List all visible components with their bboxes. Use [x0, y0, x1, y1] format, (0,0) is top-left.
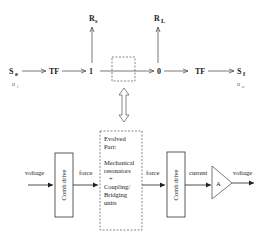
diagram: S e u i TF 1 R s 0 R L TF S f u o voltag…	[0, 0, 269, 241]
input-u-label: u	[12, 81, 15, 87]
amplifier-triangle	[212, 166, 232, 199]
source-flow-label: S	[237, 67, 242, 76]
tf-right: TF	[195, 67, 205, 76]
evolved-line-8: units	[104, 199, 117, 206]
input-u-subscript: i	[17, 84, 19, 89]
source-flow: S f u o	[237, 67, 246, 89]
evolved-line-4: resonators	[104, 167, 131, 174]
resistor-l-subscript: L	[161, 17, 166, 24]
double-arrow-icon	[119, 88, 129, 122]
force-right-label: force	[146, 169, 159, 176]
resistor-s-subscript: s	[95, 17, 98, 24]
input-voltage-label: voltage	[25, 169, 44, 176]
evolved-region-box	[112, 57, 135, 81]
source-effort-subscript: e	[15, 70, 18, 77]
evolved-line-7: Bridging	[104, 191, 128, 198]
output-voltage-label: voltage	[233, 169, 252, 176]
tf-left: TF	[49, 67, 59, 76]
evolved-line-0: Evolved	[104, 135, 126, 142]
evolved-line-5: +	[109, 175, 113, 182]
junction-0: 0	[157, 67, 161, 76]
evolved-line-1: Part:	[104, 143, 116, 150]
source-effort: S e u i	[9, 67, 19, 89]
source-effort-label: S	[9, 67, 14, 76]
source-flow-subscript: f	[243, 70, 246, 77]
resistor-l-label: R	[154, 14, 160, 23]
junction-1: 1	[89, 67, 93, 76]
current-label: current	[189, 169, 208, 176]
evolved-part-text: Evolved Part: Mechanical resonators + Co…	[104, 135, 135, 206]
comb-drive-right-label: Comb drive	[172, 169, 179, 200]
amplifier-label: A	[216, 180, 221, 187]
evolved-line-6: Coupling/	[104, 183, 130, 190]
output-u-subscript: o	[242, 84, 245, 89]
evolved-line-3: Mechanical	[104, 159, 135, 166]
comb-drive-left-label: Comb drive	[60, 169, 67, 200]
output-u-label: u	[237, 81, 240, 87]
force-left-label: force	[79, 169, 92, 176]
